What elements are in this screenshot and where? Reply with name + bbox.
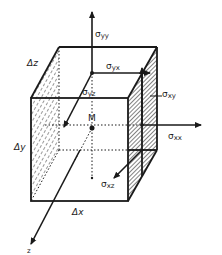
label-sigma-yx: σyx: [106, 61, 120, 72]
point-m-dot: [90, 126, 95, 131]
label-axis-z: z: [27, 247, 31, 255]
label-sigma-yz: σyz: [82, 87, 96, 98]
label-delta-z: Δz: [26, 58, 38, 68]
diagram-canvas: σyy σyx σyz σxy σxx σxz M Δx Δy Δz z: [0, 0, 222, 255]
top-center-point: [90, 71, 94, 75]
label-delta-y: Δy: [13, 142, 26, 152]
right-center-point: [140, 123, 144, 127]
bottom-center-point: [91, 177, 93, 179]
label-delta-x: Δx: [71, 207, 84, 217]
label-sigma-xz: σxz: [101, 179, 115, 190]
left-face-hatched: [31, 47, 59, 201]
label-sigma-yy: σyy: [95, 29, 109, 40]
stress-cube-diagram: σyy σyx σyz σxy σxx σxz M Δx Δy Δz z: [0, 0, 222, 255]
label-sigma-xx: σxx: [168, 131, 182, 142]
label-sigma-xy: σxy: [162, 89, 176, 100]
label-point-m: M: [88, 113, 96, 123]
